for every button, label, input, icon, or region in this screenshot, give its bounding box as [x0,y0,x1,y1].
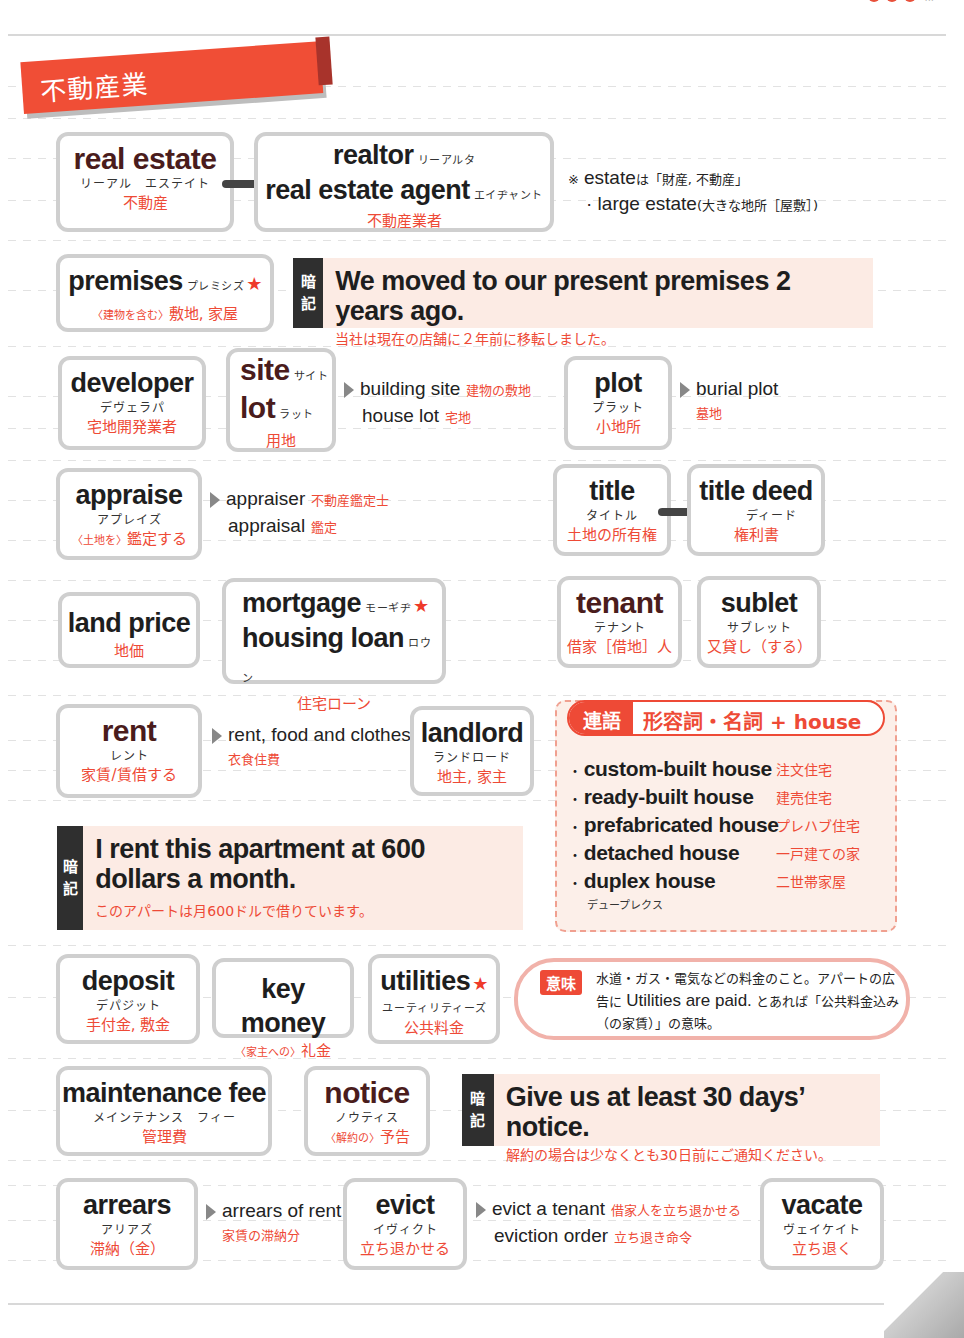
meaning: 立ち退かせる [347,1238,463,1260]
word: real estate agent [265,175,470,205]
meaning: 敷地, 家屋 [169,305,239,323]
kana: エイヂャント [474,189,543,201]
related-arrears: arrears of rent 家賃の滞納分 [206,1198,341,1248]
ribbon-fold [315,37,332,86]
memorize-sentence: 暗記 Give us at least 30 days’ notice. 解約の… [462,1074,880,1146]
example-ja: 解約の場合は少なくとも30日前にご通知ください。 [506,1144,868,1166]
word-card-appraise: appraise アプレイズ 〈土地を〉鑑定する [56,468,202,560]
kana: メインテナンス フィー [60,1110,268,1126]
ruled-line [8,1058,948,1059]
word-card-site-lot: siteサイト lotラット 用地 [226,348,336,452]
word: evict [347,1188,463,1222]
related-term: eviction order [494,1225,608,1246]
word: real estate [60,142,230,176]
related-meaning: 建物の敷地 [466,383,531,398]
meaning: 立ち退く [764,1238,880,1260]
word-card-rent: rent レント 家賃/賃借する [56,704,202,798]
related-meaning: 立ち退き命令 [614,1230,692,1245]
word: lot [240,391,275,424]
meaning: 鑑定する [127,530,187,548]
word-card-title-deed: title deed ディード 権利書 [687,464,825,556]
note-mark: ※ [568,172,579,187]
related-term: building site [360,378,460,399]
related-meaning: 衣食住費 [228,747,411,772]
word: realtor [333,140,414,170]
example-en: Give us at least 30 days’ notice. [506,1082,868,1142]
memorize-sentence: 暗記 We moved to our present premises 2 ye… [293,258,873,328]
qualifier: 〈家主への〉 [235,1046,301,1059]
example-ja: 当社は現在の店舗に２年前に移転しました。 [335,328,861,350]
word-card-title: title タイトル 土地の所有権 [553,464,671,556]
arrow-icon [212,728,222,744]
meaning: 予告 [380,1128,410,1146]
section-title: 不動産業 [39,63,149,107]
word-card-sublet: sublet サブレット 又貸し（する） [697,576,821,668]
kana: モーギヂ [365,602,411,614]
kana: ヴェイケイト [764,1222,880,1238]
kana: デパジット [60,998,196,1014]
kana: レント [60,748,198,764]
related-term: appraiser [226,488,305,509]
word-card-key-money: key money 〈家主への〉礼金 [212,958,354,1038]
related-term: rent, food and clothes [228,724,411,745]
list-item: ready-built house建売住宅 [568,783,888,811]
note-term: estate [584,167,636,188]
arrow-icon [680,382,690,398]
collocation-header: 連語 形容詞・名詞 + house [567,700,885,736]
star-icon: ★ [413,596,429,616]
meaning: 又貸し（する） [701,636,817,658]
memorize-tag: 暗記 [293,258,323,328]
duplex-kana: デュープレクス [587,896,663,912]
list-item: prefabricated houseプレハブ住宅 [568,811,888,839]
kana: デヴェラパ [62,400,202,416]
meaning: 土地の所有権 [557,524,667,546]
word-card-realtor: realtorリーアルタ real estate agentエイヂャント 不動産… [254,132,554,232]
qualifier: 〈建物を含む〉 [92,309,169,322]
word: appraise [60,478,198,512]
kana: プレミシズ [187,280,245,292]
meaning: 礼金 [301,1042,331,1060]
word-card-landlord: landlord ランドロード 地主, 家主 [410,706,534,796]
example-en: I rent this apartment at 600 dollars a m… [95,834,511,894]
word: plot [568,366,668,400]
meaning: 小地所 [568,416,668,438]
word: title [557,474,667,508]
kana: ラット [279,408,314,420]
word-card-utilities: utilities★ ユーティリティーズ 公共料金 [368,954,500,1044]
kana: イヴィクト [347,1222,463,1238]
meaning: 家賃/賃借する [60,764,198,786]
related-meaning: 墓地 [696,401,778,426]
related-term: burial plot [696,378,778,399]
word: site [240,353,290,386]
collocation-list: custom-built house注文住宅 ready-built house… [568,755,888,895]
word: notice [308,1076,426,1110]
memorize-tag: 暗記 [57,826,83,930]
word: utilities [380,966,470,996]
meaning: 不動産 [60,192,230,214]
word-card-mortgage: mortgageモーギヂ★ housing loanロウン 住宅ローン [222,578,446,684]
word-card-vacate: vacate ヴェイケイト 立ち退く [760,1178,884,1270]
word: key money [216,972,350,1040]
ruled-line [8,240,948,241]
kana: サイト [294,370,329,382]
note-term: · large estate [586,193,697,214]
page-marker-dots: ... [868,0,934,3]
kana: プラット [568,400,668,416]
word: rent [60,714,198,748]
meaning: 公共料金 [372,1017,496,1039]
memorize-sentence: 暗記 I rent this apartment at 600 dollars … [57,826,523,930]
meaning: 権利書 [691,524,821,546]
collocation-title: 形容詞・名詞 + house [633,702,871,734]
related-term: house lot [362,405,439,426]
example-ja: このアパートは月600ドルで借りています。 [95,900,511,922]
estate-note: ※ estateは「財産, 不動産」 · large estate(大きな地所［… [568,166,818,218]
ruled-line [8,460,948,461]
word-card-premises: premisesプレミシズ★ 〈建物を含む〉敷地, 家屋 [56,254,274,332]
meaning: 用地 [240,430,332,452]
collocation-label: 連語 [569,702,633,734]
related-plot: burial plot 墓地 [680,376,778,426]
word: sublet [701,586,817,620]
kana: サブレット [701,620,817,636]
meaning: 地主, 家主 [414,766,530,788]
word: housing loan [242,623,404,653]
